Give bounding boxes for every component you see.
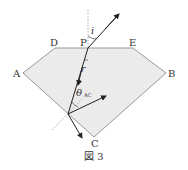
incident-ray-arrow — [105, 14, 119, 29]
label-theta: θ — [76, 87, 82, 98]
figure-caption: 図 3 — [84, 151, 104, 162]
gem-refraction-diagram: D P E A B C i r θ AC 図 3 — [0, 0, 188, 170]
label-theta-sub: AC — [83, 92, 92, 98]
label-P: P — [80, 37, 87, 48]
label-B: B — [168, 68, 175, 79]
label-E: E — [129, 37, 136, 48]
label-i: i — [91, 25, 94, 36]
label-C: C — [91, 138, 99, 149]
label-A: A — [12, 68, 21, 79]
gem-shape — [23, 48, 166, 137]
angle-arc-i — [88, 36, 96, 39]
label-D: D — [50, 37, 58, 48]
label-r: r — [81, 64, 86, 74]
